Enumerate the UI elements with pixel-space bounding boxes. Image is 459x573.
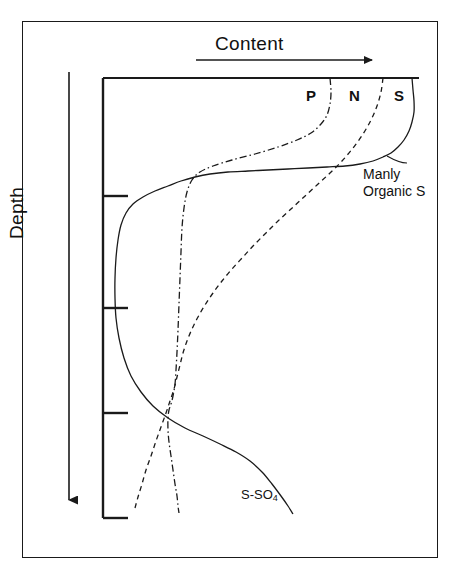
x-axis-label: Content (215, 33, 284, 55)
curve-n (135, 78, 383, 508)
curve-p (168, 78, 331, 513)
manly-leader-line (387, 156, 407, 163)
annotation-sso4-main: S-SO (241, 487, 273, 502)
series-curves (115, 78, 414, 514)
depth-profile-figure: Content Depth P N S Manly Organic S S-SO… (0, 0, 459, 573)
series-label-n: N (349, 87, 360, 104)
curve-s (115, 78, 414, 514)
annotation-manly-line1: Manly (363, 166, 425, 183)
series-label-s: S (394, 87, 404, 104)
annotation-manly-line2: Organic S (363, 183, 425, 200)
annotation-sso4-sub: 4 (273, 493, 278, 503)
figure-lineart (0, 0, 459, 573)
annotation-s-so4: S-SO4 (241, 487, 278, 503)
y-axis-label: Depth (6, 187, 28, 239)
series-label-p: P (306, 87, 316, 104)
annotation-manly-organic-s: Manly Organic S (363, 166, 425, 200)
